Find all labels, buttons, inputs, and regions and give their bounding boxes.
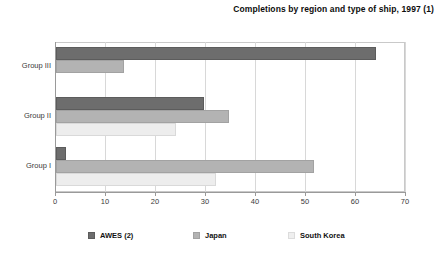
gridline	[405, 42, 406, 192]
x-axis-tick-label: 0	[53, 197, 57, 206]
x-axis-tick-label: 70	[401, 197, 409, 206]
bar-awes-2-group-i	[56, 147, 66, 160]
legend-label: Japan	[205, 231, 227, 240]
gridline	[355, 42, 356, 192]
x-axis-tick-label: 50	[301, 197, 309, 206]
chart-title: Completions by region and type of ship, …	[233, 4, 434, 14]
x-axis-tick-label: 20	[151, 197, 159, 206]
category-label: Group I	[26, 161, 51, 170]
chart-legend: AWES (2)JapanSouth Korea	[0, 231, 442, 245]
category-label: Group III	[22, 61, 51, 70]
legend-item-south-korea[interactable]: South Korea	[288, 231, 345, 240]
x-axis-tick	[255, 192, 256, 196]
legend-label: AWES (2)	[100, 231, 133, 240]
x-axis-tick-label: 40	[251, 197, 259, 206]
x-axis-tick	[155, 192, 156, 196]
x-axis-tick-label: 30	[201, 197, 209, 206]
x-axis-tick	[55, 192, 56, 196]
legend-item-awes-2[interactable]: AWES (2)	[88, 231, 133, 240]
bar-south-korea-group-ii	[56, 123, 176, 136]
x-axis-tick	[305, 192, 306, 196]
legend-swatch-icon	[193, 232, 200, 239]
bar-south-korea-group-i	[56, 173, 216, 186]
bar-japan-group-i	[56, 160, 314, 173]
x-axis-tick	[405, 192, 406, 196]
x-axis-tick-label: 60	[351, 197, 359, 206]
category-label: Group II	[24, 111, 51, 120]
bar-awes-2-group-iii	[56, 47, 376, 60]
legend-swatch-icon	[288, 232, 295, 239]
x-axis-tick	[205, 192, 206, 196]
bar-japan-group-ii	[56, 110, 229, 123]
bar-japan-group-iii	[56, 60, 124, 73]
x-axis-tick-label: 10	[101, 197, 109, 206]
legend-item-japan[interactable]: Japan	[193, 231, 227, 240]
x-axis-tick	[355, 192, 356, 196]
x-axis-line	[55, 192, 406, 193]
legend-swatch-icon	[88, 232, 95, 239]
legend-label: South Korea	[300, 231, 345, 240]
bar-awes-2-group-ii	[56, 97, 204, 110]
x-axis-tick	[105, 192, 106, 196]
